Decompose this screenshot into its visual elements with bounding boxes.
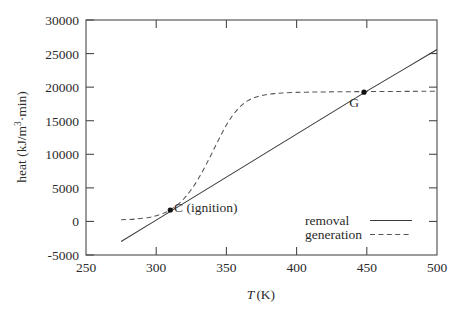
chart-svg: 30000 25000 20000 15000 10000 5000 0 -50…	[0, 0, 463, 311]
y-tick-label-25000: 25000	[45, 47, 79, 62]
x-tick-label-450: 450	[357, 260, 378, 275]
series-generation-line	[121, 91, 437, 220]
annotation-label-g: G	[349, 95, 359, 110]
y-tick-label-20000: 20000	[45, 80, 79, 95]
y-axis-title: heat (kJ/m3·min)	[13, 91, 29, 182]
x-axis-title-unit: (K)	[256, 287, 275, 302]
x-axis-ticks-bottom	[156, 247, 367, 255]
y-tick-label-5000: 5000	[52, 181, 79, 196]
y-tick-label-15000: 15000	[45, 114, 79, 129]
annotation-markers	[168, 90, 367, 213]
x-tick-label-500: 500	[427, 260, 448, 275]
x-tick-label-350: 350	[216, 260, 237, 275]
annotation-label-c: C (ignition)	[174, 200, 237, 215]
annotation-marker-g	[361, 90, 366, 95]
y-tick-label--5000: -5000	[48, 248, 80, 263]
annotation-marker-c	[168, 207, 173, 212]
x-axis-title-symbol: T	[247, 287, 256, 302]
y-tick-label-10000: 10000	[45, 147, 79, 162]
x-axis-title: T(K)	[247, 287, 275, 302]
y-axis-ticks-left	[86, 20, 94, 255]
plot-frame	[86, 20, 437, 255]
x-tick-label-300: 300	[146, 260, 167, 275]
chart-figure: 30000 25000 20000 15000 10000 5000 0 -50…	[0, 0, 463, 311]
legend: removal generation	[305, 213, 412, 242]
y-axis-title-post: ·min)	[14, 91, 29, 121]
series-layer	[121, 50, 437, 242]
y-tick-label-30000: 30000	[45, 13, 79, 28]
x-tick-label-250: 250	[76, 260, 97, 275]
x-tick-label-400: 400	[286, 260, 307, 275]
y-tick-label-0: 0	[72, 214, 79, 229]
x-tick-labels: 250 300 350 400 450 500	[76, 260, 448, 275]
y-axis-ticks-right	[429, 54, 437, 222]
y-tick-labels: 30000 25000 20000 15000 10000 5000 0 -50…	[45, 13, 79, 263]
x-axis-ticks-top	[156, 20, 367, 28]
series-removal-line	[121, 50, 437, 242]
legend-label-removal: removal	[305, 213, 349, 228]
y-axis-title-pre: heat (kJ/m	[14, 126, 29, 183]
legend-label-generation: generation	[305, 227, 362, 242]
